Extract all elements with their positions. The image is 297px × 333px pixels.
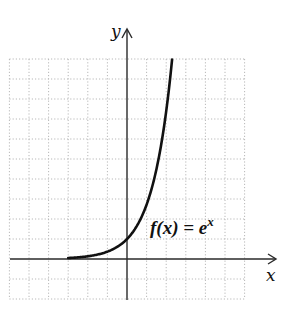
x-axis-label: x (266, 265, 276, 285)
function-label: f(x) = ex (150, 214, 214, 239)
exponential-graph: y x f(x) = ex (0, 0, 297, 333)
y-axis-label: y (110, 21, 121, 41)
